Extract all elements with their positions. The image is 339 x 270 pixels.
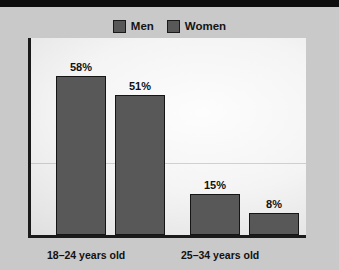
bar-men-18-24[interactable]: 58% (56, 62, 106, 235)
bar-rect-men-25-34 (190, 194, 240, 235)
bar-rect-women-18-24 (115, 95, 165, 235)
legend-item-men: Men (113, 20, 154, 33)
plot-area: 58% 51% 15% 8% (28, 38, 306, 238)
x-axis-label-18-24: 18–24 years old (47, 249, 125, 261)
bar-value-women-25-34: 8% (266, 199, 282, 210)
bar-men-25-34[interactable]: 15% (190, 180, 240, 235)
x-axis: 18–24 years old 25–34 years old (28, 245, 306, 267)
legend-item-women: Women (167, 20, 226, 33)
legend-swatch-men (113, 20, 126, 33)
bar-value-men-18-24: 58% (70, 62, 92, 73)
chart-legend: Men Women (0, 20, 339, 33)
bar-group-18-24: 58% 51% (56, 62, 165, 235)
bar-value-women-18-24: 51% (129, 81, 151, 92)
legend-label-men: Men (131, 21, 154, 33)
bar-value-men-25-34: 15% (204, 180, 226, 191)
bar-rect-men-18-24 (56, 76, 106, 235)
x-axis-label-25-34: 25–34 years old (181, 249, 259, 261)
legend-label-women: Women (185, 21, 226, 33)
bar-rect-women-25-34 (249, 213, 299, 235)
legend-swatch-women (167, 20, 180, 33)
bar-group-25-34: 15% 8% (190, 180, 299, 235)
bar-women-18-24[interactable]: 51% (115, 81, 165, 235)
bar-women-25-34[interactable]: 8% (249, 199, 299, 235)
chart-card: Men Women 58% 51% 15% (0, 7, 339, 270)
chart-title-bar (0, 0, 339, 7)
